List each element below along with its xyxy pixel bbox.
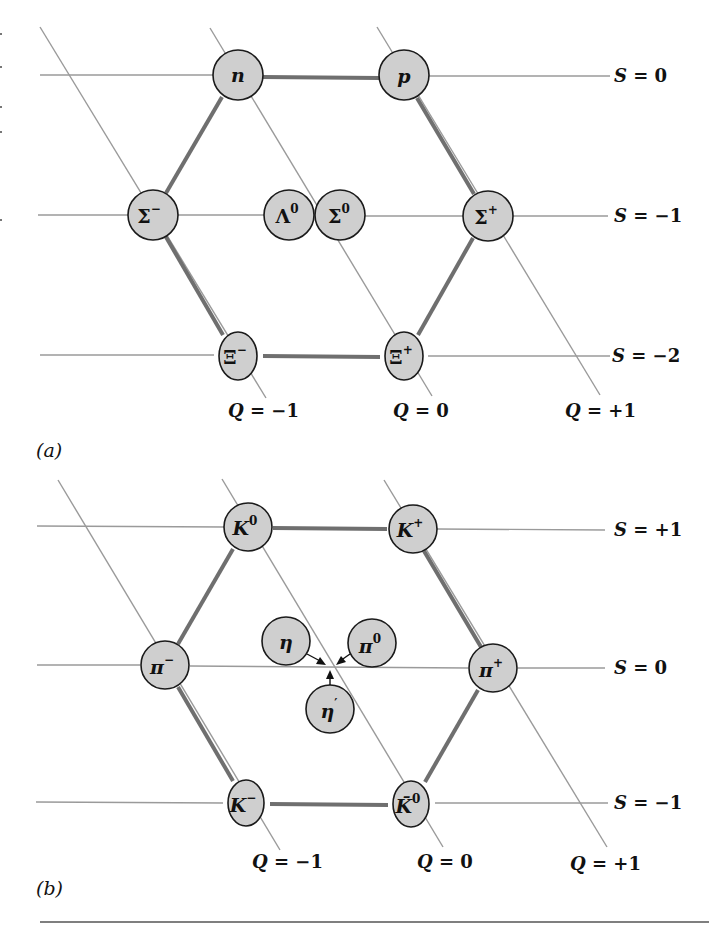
particle-sigma0: Σ0	[315, 190, 365, 240]
edge-n-p	[263, 77, 379, 78]
particle-k-plus: K+	[389, 505, 437, 553]
edge-kplus-piplus	[424, 551, 481, 647]
q-label-m1: Q = −1	[252, 851, 323, 872]
edge-k0-kplus	[273, 528, 387, 529]
particle-k-minus: K−	[228, 780, 264, 826]
particle-sigma-plus: Σ+	[463, 191, 513, 241]
particle-xi-minus: Ξ−	[219, 332, 257, 380]
particle-k0: K0	[224, 503, 272, 551]
edge-p-sigma-plus	[417, 98, 474, 194]
q-label-0: Q = 0	[417, 851, 473, 872]
svg-text:η: η	[279, 631, 293, 653]
svg-text:p: p	[397, 65, 411, 87]
particle-xi-plus: Ξ+	[385, 332, 423, 380]
particle-pi0: π0	[348, 619, 396, 667]
edge-piplus-k0bar	[425, 690, 478, 782]
particle-eta: η	[262, 617, 310, 665]
edge-sigma-plus-xi-plus	[418, 238, 473, 335]
edge-k0-piminus	[178, 549, 233, 644]
particle-pi-minus: π−	[141, 641, 189, 689]
q-label-0: Q = 0	[393, 400, 449, 421]
particle-eta-prime: η′	[306, 685, 354, 733]
edge-kminus-k0bar	[270, 804, 388, 805]
particle-pi-plus: π+	[469, 644, 517, 692]
s-label-0: S = 0	[614, 65, 667, 86]
margin-ticks	[0, 33, 2, 221]
svg-text:n: n	[231, 64, 245, 86]
q-label-p1: Q = +1	[570, 853, 641, 874]
panel-label-b: (b)	[36, 877, 63, 899]
q-label-p1: Q = +1	[565, 400, 636, 421]
s-line-p1-right	[437, 529, 605, 530]
eightfold-way-figure: n p Σ− Λ0 Σ0 Σ+ Ξ− Ξ+ S	[0, 0, 709, 925]
s-label-m1: S = −1	[614, 205, 682, 226]
panel-a-baryon-octet: n p Σ− Λ0 Σ0 Σ+ Ξ− Ξ+ S	[36, 27, 682, 461]
s-line-p1-left	[37, 526, 224, 527]
edge-piminus-kminus	[178, 687, 233, 781]
edge-sigma-minus-xi-minus	[166, 237, 223, 335]
s-label-m2: S = −2	[612, 345, 680, 366]
s-line-m1-a	[36, 802, 223, 803]
panel-b-meson-octet: K0 K+ π− π+ η π0 η′ K−	[36, 479, 682, 899]
s-line-0-b	[190, 666, 468, 668]
panel-label-a: (a)	[36, 439, 62, 461]
particle-lambda0: Λ0	[264, 190, 314, 240]
particle-n: n	[213, 50, 263, 100]
particle-k0-bar: K̄0	[393, 781, 429, 827]
s-label-0: S = 0	[614, 657, 667, 678]
edge-xi-minus-xi-plus	[263, 356, 380, 357]
particle-sigma-minus: Σ−	[128, 190, 178, 240]
s-label-m1: S = −1	[614, 792, 682, 813]
particle-p: p	[379, 50, 429, 100]
edge-n-sigma-minus	[166, 97, 222, 193]
s-label-p1: S = +1	[614, 519, 682, 540]
q-label-m1: Q = −1	[228, 400, 299, 421]
